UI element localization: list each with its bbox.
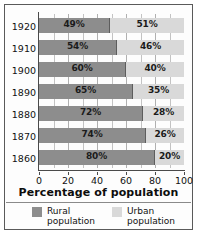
y-axis-label-1870: 1870 — [6, 131, 36, 142]
bar-segment-urban: 35% — [133, 84, 184, 99]
bar-segment-rural: 54% — [39, 40, 117, 55]
legend-label-rural: Rural population — [47, 206, 95, 226]
bar-value-label-rural: 80% — [86, 151, 107, 161]
bar-segment-urban: 26% — [146, 128, 184, 143]
bar-segment-rural: 49% — [39, 18, 110, 33]
y-axis-label-1880: 1880 — [6, 109, 36, 120]
bar-row: 65%35% — [39, 84, 184, 99]
legend-swatch-urban-icon — [112, 207, 122, 217]
x-axis-line — [38, 170, 185, 171]
bar-value-label-urban: 46% — [140, 41, 161, 51]
x-tick-label-100: 100 — [175, 175, 193, 186]
bar-value-label-rural: 49% — [64, 19, 85, 29]
bar-value-label-urban: 28% — [153, 107, 174, 117]
x-tick-label-60: 60 — [120, 175, 132, 186]
bar-segment-rural: 72% — [39, 106, 143, 121]
bar-row: 74%26% — [39, 128, 184, 143]
bar-row: 60%40% — [39, 62, 184, 77]
bar-segment-urban: 20% — [155, 150, 184, 165]
x-tick-label-80: 80 — [149, 175, 161, 186]
bar-value-label-urban: 35% — [148, 85, 169, 95]
chart-legend: Rural population Urban population — [5, 204, 192, 230]
bar-value-label-rural: 60% — [72, 63, 93, 73]
bar-value-label-urban: 51% — [137, 19, 158, 29]
bar-segment-rural: 74% — [39, 128, 146, 143]
x-axis-tick-labels: 020406080100 — [39, 172, 184, 185]
bar-segment-urban: 51% — [110, 18, 184, 33]
bar-segment-rural: 80% — [39, 150, 155, 165]
bar-segment-urban: 40% — [126, 62, 184, 77]
x-tick-label-0: 0 — [36, 175, 42, 186]
legend-label-urban-line1: Urban — [127, 206, 154, 216]
bar-row: 80%20% — [39, 150, 184, 165]
bar-value-label-urban: 20% — [159, 151, 180, 161]
bar-row: 72%28% — [39, 106, 184, 121]
y-axis-label-1920: 1920 — [6, 21, 36, 32]
x-axis-title: Percentage of population — [5, 186, 192, 199]
y-axis-label-1860: 1860 — [6, 153, 36, 164]
plot-area: 49%51%54%46%60%40%65%35%72%28%74%26%80%2… — [39, 14, 184, 168]
bar-segment-rural: 65% — [39, 84, 133, 99]
bar-segment-urban: 46% — [117, 40, 184, 55]
chart-figure: 1920191019001890188018701860 49%51%54%46… — [4, 4, 193, 230]
legend-divider — [6, 202, 191, 203]
x-tick-label-20: 20 — [62, 175, 74, 186]
bar-value-label-rural: 54% — [67, 41, 88, 51]
legend-label-rural-line1: Rural — [47, 206, 70, 216]
legend-item-rural: Rural population — [32, 206, 95, 226]
legend-label-rural-line2: population — [47, 216, 95, 226]
bar-value-label-urban: 40% — [145, 63, 166, 73]
y-axis-category-labels: 1920191019001890188018701860 — [5, 14, 36, 168]
bar-segment-rural: 60% — [39, 62, 126, 77]
bar-value-label-rural: 72% — [80, 107, 101, 117]
legend-label-urban: Urban population — [127, 206, 175, 226]
y-axis-label-1890: 1890 — [6, 87, 36, 98]
y-axis-label-1910: 1910 — [6, 43, 36, 54]
y-axis-label-1900: 1900 — [6, 65, 36, 76]
x-tick-label-40: 40 — [91, 175, 103, 186]
bar-value-label-urban: 26% — [155, 129, 176, 139]
bar-row: 54%46% — [39, 40, 184, 55]
legend-swatch-rural-icon — [32, 207, 42, 217]
legend-item-urban: Urban population — [112, 206, 175, 226]
bar-value-label-rural: 74% — [82, 129, 103, 139]
bar-value-label-rural: 65% — [75, 85, 96, 95]
legend-label-urban-line2: population — [127, 216, 175, 226]
bar-segment-urban: 28% — [143, 106, 184, 121]
bar-row: 49%51% — [39, 18, 184, 33]
